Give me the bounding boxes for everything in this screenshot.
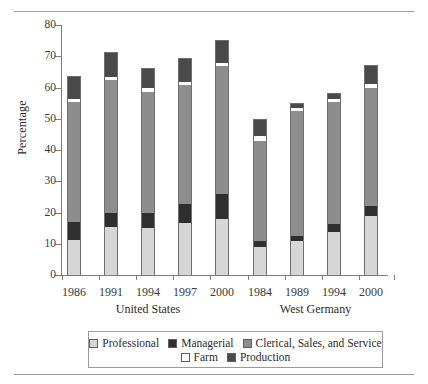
top-divider-rule [14, 11, 414, 12]
bar-segment-professional [328, 232, 340, 275]
x-tick [285, 275, 286, 280]
y-tick-label: 10 [30, 238, 56, 250]
bar-segment-clerical [216, 66, 228, 194]
bar-west-germany-2000[interactable] [364, 65, 378, 275]
bar-united-states-1994[interactable] [141, 68, 155, 275]
legend-label: Production [240, 351, 290, 364]
bar-united-states-1997[interactable] [178, 58, 192, 275]
bar-segment-production [68, 76, 80, 99]
legend-swatch-icon [89, 339, 98, 348]
chart-figure: Percentage 80706050403020100 19861991199… [0, 0, 428, 384]
bar-segment-clerical [254, 141, 266, 241]
bar-segment-production [254, 119, 266, 136]
legend-swatch-icon [168, 339, 177, 348]
x-tick [359, 275, 360, 280]
legend-swatch-icon [181, 353, 190, 362]
bar-segment-managerial [216, 194, 228, 219]
x-tick [173, 275, 174, 280]
legend-item-professional[interactable]: Professional [89, 337, 159, 350]
x-tick [62, 275, 63, 280]
x-tick [210, 275, 211, 280]
y-tick-label: 70 [30, 50, 56, 62]
legend-label: Clerical, Sales, and Service [256, 337, 382, 350]
bar-segment-managerial [142, 213, 154, 229]
bar-segment-clerical [328, 102, 340, 224]
legend-label: Managerial [181, 337, 233, 350]
legend-label: Farm [194, 351, 218, 364]
legend-item-managerial[interactable]: Managerial [168, 337, 233, 350]
bar-segment-clerical [142, 92, 154, 213]
y-tick-label: 0 [30, 269, 56, 281]
bar-segment-clerical [105, 80, 117, 212]
bar-segment-production [216, 40, 228, 63]
x-tick [99, 275, 100, 280]
y-tick-label: 40 [30, 144, 56, 156]
x-tick [136, 275, 137, 280]
y-tick-label: 60 [30, 82, 56, 94]
bar-segment-managerial [68, 222, 80, 240]
bar-segment-clerical [291, 111, 303, 236]
chart-legend: ProfessionalManagerialClerical, Sales, a… [88, 331, 383, 368]
bar-segment-professional [68, 240, 80, 275]
bar-segment-production [179, 58, 191, 82]
legend-item-production[interactable]: Production [227, 351, 290, 364]
bar-west-germany-1994[interactable] [327, 93, 341, 275]
y-tick-label: 20 [30, 207, 56, 219]
y-tick-label: 30 [30, 175, 56, 187]
group-label-west-germany: West Germany [251, 302, 381, 317]
legend-swatch-icon [243, 339, 252, 348]
bar-segment-clerical [365, 88, 377, 207]
bar-segment-managerial [179, 204, 191, 223]
bar-united-states-1986[interactable] [67, 76, 81, 275]
bar-united-states-1991[interactable] [104, 52, 118, 275]
bar-united-states-2000[interactable] [215, 40, 229, 275]
bar-segment-professional [254, 247, 266, 275]
x-axis-line [61, 275, 388, 276]
bar-west-germany-1984[interactable] [253, 119, 267, 275]
bar-segment-professional [105, 227, 117, 275]
bar-segment-managerial [105, 213, 117, 227]
bar-segment-clerical [68, 102, 80, 222]
bar-segment-clerical [179, 85, 191, 204]
bar-segment-production [365, 65, 377, 85]
legend-row-1: ProfessionalManagerialClerical, Sales, a… [89, 337, 381, 350]
bar-segment-production [105, 52, 117, 77]
group-label-united-states: United States [83, 302, 213, 317]
bar-segment-professional [365, 216, 377, 275]
bar-segment-managerial [365, 206, 377, 215]
legend-item-clerical-sales-and-service[interactable]: Clerical, Sales, and Service [243, 337, 382, 350]
y-tick-label: 80 [30, 19, 56, 31]
legend-label: Professional [102, 337, 159, 350]
bottom-divider-rule [14, 374, 414, 375]
y-tick-label: 50 [30, 113, 56, 125]
legend-swatch-icon [227, 353, 236, 362]
x-tick-label-2000: 2000 [348, 285, 394, 300]
x-tick [322, 275, 323, 280]
bar-segment-professional [142, 228, 154, 275]
legend-row-2: FarmProduction [181, 351, 291, 364]
bar-west-germany-1989[interactable] [290, 103, 304, 275]
legend-item-farm[interactable]: Farm [181, 351, 218, 364]
bar-segment-production [142, 68, 154, 89]
bar-segment-managerial [328, 224, 340, 232]
bar-segment-professional [291, 241, 303, 275]
x-tick [248, 275, 249, 280]
x-tick [394, 275, 395, 280]
y-axis-tick-labels: 80706050403020100 [22, 0, 56, 384]
bar-segment-professional [216, 219, 228, 275]
plot-area [61, 25, 388, 275]
bar-segment-professional [179, 223, 191, 276]
